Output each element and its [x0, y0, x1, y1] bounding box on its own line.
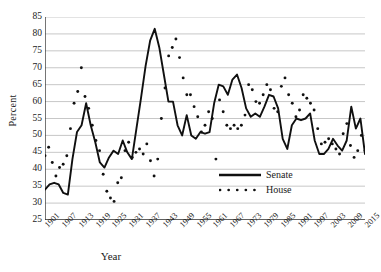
- x-tick-label: 1913: [77, 211, 95, 229]
- x-tick-label: 1961: [211, 211, 229, 229]
- legend-key-solid-line: [219, 170, 261, 180]
- x-tick-label: 1955: [195, 211, 213, 229]
- x-tick-label: 1925: [110, 211, 128, 229]
- x-tick-label: 1973: [245, 211, 263, 229]
- x-tick-label: 1919: [94, 211, 112, 229]
- x-axis-title: Year: [0, 250, 377, 262]
- legend-item-senate: Senate: [219, 167, 293, 182]
- chart-legend: Senate House: [219, 167, 293, 197]
- x-tick-label: 1901: [43, 211, 61, 229]
- legend-key-dotted-line: [219, 185, 261, 195]
- x-tick-label: 2015: [363, 211, 381, 229]
- x-tick-label: 1907: [60, 211, 78, 229]
- x-tick-label: 1943: [161, 211, 179, 229]
- x-tick-label: 1931: [127, 211, 145, 229]
- x-tick-label: 1979: [262, 211, 280, 229]
- x-tick-label: 1967: [228, 211, 246, 229]
- legend-item-house: House: [219, 182, 293, 197]
- x-tick-label: 1985: [279, 211, 297, 229]
- x-tick-label: 1949: [178, 211, 196, 229]
- x-tick-label: 1991: [296, 211, 314, 229]
- legend-label-senate: Senate: [266, 170, 293, 180]
- x-tick-label: 2003: [329, 211, 347, 229]
- x-axis-title-text: Year: [101, 250, 121, 262]
- x-tick-label: 1997: [312, 211, 330, 229]
- x-tick-label: 2009: [346, 211, 364, 229]
- legend-label-house: House: [266, 185, 292, 195]
- x-tick-label: 1937: [144, 211, 162, 229]
